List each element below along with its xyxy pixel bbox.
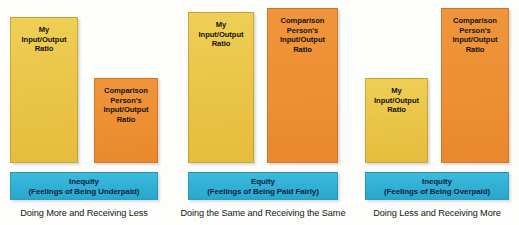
banner-line1: Inequity (366, 177, 508, 187)
bar-comparison-ratio: ComparisonPerson'sInput/OutputRatio (94, 78, 158, 163)
bar-label-line: Ratio (95, 115, 157, 125)
banner-line2: (Feelings of Being Paid Fairly) (189, 187, 337, 197)
bar-label-line: Ratio (366, 105, 427, 115)
bar-label-line: Input/Output (189, 30, 253, 40)
bar-label-line: Ratio (442, 45, 508, 55)
outcome-banner-overpaid: Inequity(Feelings of Being Overpaid) (365, 172, 509, 200)
bar-my-ratio: MyInput/OutputRatio (10, 17, 78, 163)
bar-label-line: Ratio (268, 45, 337, 55)
bar-label-line: Ratio (189, 39, 253, 49)
bar-my-ratio: MyInput/OutputRatio (188, 12, 254, 163)
bar-comparison-ratio: ComparisonPerson'sInput/OutputRatio (441, 8, 509, 163)
bar-label-line: Input/Output (95, 105, 157, 115)
bar-label-line: Input/Output (11, 35, 77, 45)
banner-line2: (Feelings of Being Overpaid) (366, 187, 508, 197)
bar-label-line: Comparison (95, 79, 157, 96)
bar-label-line: Person's (95, 96, 157, 106)
outcome-banner-paid-fairly: Equity(Feelings of Being Paid Fairly) (188, 172, 338, 200)
bar-label-line: Person's (268, 26, 337, 36)
banner-line2: (Feelings of Being Underpaid) (11, 187, 157, 197)
bar-label-line: My (189, 13, 253, 30)
panel-caption-overpaid: Doing Less and Receiving More (362, 208, 512, 219)
bar-label-line: Person's (442, 26, 508, 36)
banner-line1: Inequity (11, 177, 157, 187)
bar-label-line: Ratio (11, 44, 77, 54)
bar-label-line: Input/Output (442, 35, 508, 45)
panel-caption-paid-fairly: Doing the Same and Receiving the Same (178, 208, 348, 219)
bar-label-line: My (366, 79, 427, 96)
bar-label-line: Comparison (268, 9, 337, 26)
bar-label-line: Input/Output (268, 35, 337, 45)
banner-line1: Equity (189, 177, 337, 187)
outcome-banner-underpaid: Inequity(Feelings of Being Underpaid) (10, 172, 158, 200)
bar-label-line: Comparison (442, 9, 508, 26)
bar-comparison-ratio: ComparisonPerson'sInput/OutputRatio (267, 8, 338, 163)
panel-caption-underpaid: Doing More and Receiving Less (10, 208, 158, 219)
bar-my-ratio: MyInput/OutputRatio (365, 78, 428, 163)
bar-label-line: Input/Output (366, 96, 427, 106)
bar-label-line: My (11, 18, 77, 35)
equity-theory-diagram: MyInput/OutputRatioComparisonPerson'sInp… (0, 0, 519, 225)
